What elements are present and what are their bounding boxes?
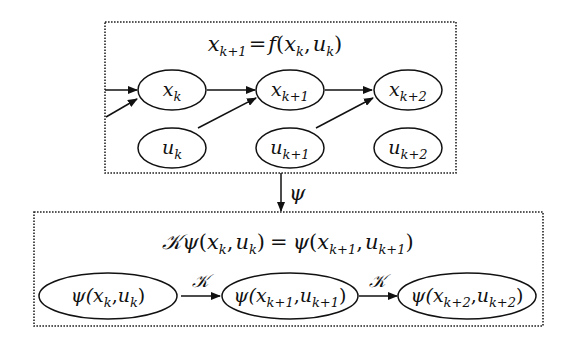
lifted-node-k2: ψ(xk+2,uk+2) (398, 273, 536, 319)
input-node-uk: uk (138, 128, 206, 168)
input-node-uk2: uk+2 (374, 128, 442, 168)
lifted-node-k: ψ(xk,uk) (39, 273, 177, 319)
input-node-uk1: uk+1 (256, 128, 324, 168)
koopman-diagram: xk+1=f(xk,uk) xk xk+1 xk+2 uk uk+1 uk+2 … (0, 0, 570, 345)
psi-label: ψ (289, 181, 306, 205)
incoming-input-arrow (106, 99, 137, 117)
input-arrow-uk-to-xk1 (198, 98, 256, 128)
koopman-operator-label-2: 𝒦 (369, 270, 391, 291)
state-node-xk1: xk+1 (256, 70, 324, 110)
koopman-equation: 𝒦ψ(xk,uk)=ψ(xk+1,uk+1) (162, 230, 413, 257)
lifted-node-k1: ψ(xk+1,uk+1) (222, 273, 358, 319)
state-node-xk: xk (138, 70, 206, 110)
dynamics-equation: xk+1=f(xk,uk) (208, 32, 343, 59)
state-node-xk2: xk+2 (374, 70, 442, 110)
koopman-operator-label-1: 𝒦 (192, 270, 214, 291)
input-arrow-uk1-to-xk2 (316, 98, 373, 128)
